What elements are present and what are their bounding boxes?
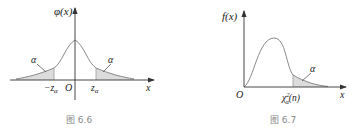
right-area-label: α (108, 54, 114, 65)
y-axis-label: φ(x) (54, 5, 73, 18)
figure-6-6: φ(x) α α −zα O zα x 图 6.6 (10, 5, 154, 125)
y-axis-label: f(x) (222, 10, 238, 23)
figures-canvas: φ(x) α α −zα O zα x 图 6.6 f(x) α O χ2α(n… (0, 0, 355, 132)
right-tail-shade (293, 75, 328, 87)
x-axis-label: x (339, 89, 345, 100)
chi-square-quantile-label: χ2α(n) (281, 91, 300, 105)
chi-square-curve (244, 38, 328, 87)
caption-6-6: 图 6.6 (66, 115, 92, 125)
figure-6-7: f(x) α O χ2α(n) x 图 6.7 (222, 10, 346, 125)
x-axis-label: x (145, 82, 151, 93)
neg-z-alpha-label: −zα (44, 83, 58, 95)
left-area-label: α (31, 54, 37, 65)
caption-6-7: 图 6.7 (270, 115, 296, 125)
origin-label: O (65, 82, 72, 93)
area-label: α (310, 63, 316, 74)
origin-label: O (236, 89, 243, 100)
z-alpha-label: zα (90, 83, 99, 95)
